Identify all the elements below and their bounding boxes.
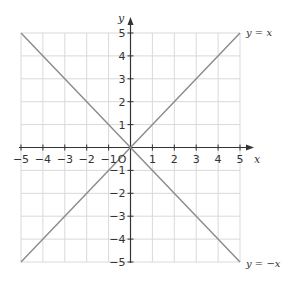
- x-tick-label: 2: [171, 153, 178, 166]
- x-tick-label: −4: [35, 153, 51, 166]
- chart: −5−4−3−2−11234554321−1−2−3−4−5 x y O y =…: [0, 0, 293, 284]
- y-tick-label: −4: [109, 233, 125, 246]
- y-tick-label: 2: [119, 96, 126, 109]
- x-tick-label: 3: [193, 153, 200, 166]
- x-tick-label: −2: [79, 153, 95, 166]
- y-tick-label: −2: [109, 187, 125, 200]
- origin-label: O: [118, 153, 127, 166]
- y-axis-arrow-icon: [128, 17, 134, 25]
- y-tick-label: 3: [119, 73, 126, 86]
- y-tick-label: −5: [109, 256, 125, 269]
- x-tick-label: −5: [13, 153, 29, 166]
- y-tick-label: −1: [109, 164, 125, 177]
- x-axis-arrow-icon: [246, 145, 254, 151]
- x-tick-label: 1: [149, 153, 156, 166]
- y-tick-label: 5: [119, 27, 126, 40]
- y-tick-label: 1: [119, 119, 126, 132]
- x-tick-label: 5: [237, 153, 244, 166]
- y-tick-label: 4: [119, 50, 126, 63]
- x-tick-label: 4: [215, 153, 222, 166]
- x-axis-label: x: [254, 153, 261, 166]
- y-tick-label: −3: [109, 210, 125, 223]
- line-label-y-equals-x: y = x: [245, 27, 272, 38]
- line-label-y-equals-neg-x: y = −x: [245, 258, 281, 269]
- axes: [19, 17, 254, 263]
- x-tick-label: −3: [57, 153, 73, 166]
- y-axis-label: y: [117, 12, 125, 25]
